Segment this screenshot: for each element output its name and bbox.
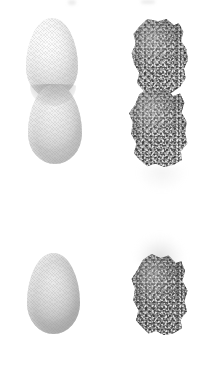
top-edge-artifact-left (68, 0, 76, 5)
rock-scatter-plume (134, 222, 188, 264)
specimen-rock-dark (131, 254, 188, 335)
top-edge-artifact-right (141, 0, 155, 4)
specimen-ovoid-grey (27, 253, 80, 334)
figure-canvas (0, 0, 219, 389)
specimen-rock-lower (128, 88, 188, 167)
specimen-rock-upper (130, 19, 188, 98)
specimen-ovoid-mid (28, 84, 82, 164)
row-gap-haze (136, 166, 188, 200)
